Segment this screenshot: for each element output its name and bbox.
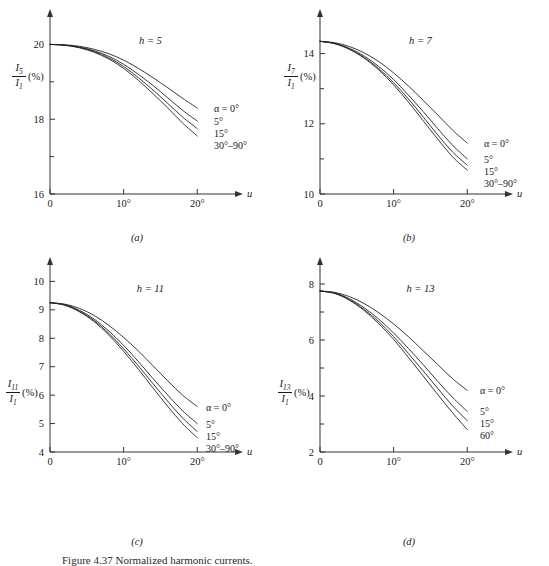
y-unit-d: (%) (294, 387, 310, 398)
svg-text:h = 5: h = 5 (139, 35, 162, 46)
y-den-sub-b: 1 (291, 82, 295, 91)
svg-text:0: 0 (317, 456, 322, 467)
svg-text:30°–90°: 30°–90° (484, 178, 517, 189)
plot-d: u2468010°20°h = 13α = 0°5°15°60° (272, 252, 546, 510)
svg-text:9: 9 (39, 304, 44, 315)
y-axis-label-b: I7 I1 (%) (284, 62, 316, 91)
svg-text:2: 2 (309, 447, 314, 458)
y-num-sub-c: 11 (11, 383, 18, 392)
y-num-sub-b: 7 (291, 67, 295, 76)
svg-text:18: 18 (34, 114, 45, 125)
svg-text:h = 11: h = 11 (137, 283, 164, 294)
y-den-sub-d: 1 (285, 398, 289, 407)
svg-text:20°: 20° (190, 198, 205, 209)
svg-text:0: 0 (47, 198, 52, 209)
svg-text:14: 14 (304, 48, 315, 59)
chart-panel-a: u161820010°20°h = 5α = 0°5°15°30°–90° I5… (0, 0, 274, 258)
svg-text:u: u (517, 446, 522, 457)
svg-text:5°: 5° (484, 154, 493, 165)
panel-letter-c: (c) (0, 536, 274, 547)
y-axis-label-a: I5 I1 (%) (12, 62, 44, 91)
svg-text:60°: 60° (480, 430, 494, 441)
svg-text:α = 0°: α = 0° (214, 103, 239, 114)
chart-panel-d: u2468010°20°h = 13α = 0°5°15°60° (272, 252, 546, 510)
svg-text:10°: 10° (386, 456, 401, 467)
y-unit-c: (%) (22, 387, 38, 398)
svg-text:15°: 15° (214, 128, 228, 139)
svg-text:8: 8 (39, 333, 44, 344)
svg-text:0: 0 (317, 198, 322, 209)
chart-panel-b: u101214010°20°h = 7α = 0°5°15°30°–90° (272, 0, 546, 258)
svg-text:h = 7: h = 7 (409, 35, 433, 46)
svg-text:7: 7 (39, 361, 44, 372)
svg-text:5°: 5° (214, 116, 223, 127)
svg-text:8: 8 (309, 279, 314, 290)
svg-text:30°–90°: 30°–90° (206, 443, 239, 454)
y-unit-b: (%) (300, 71, 316, 82)
svg-text:30°–90°: 30°–90° (214, 140, 247, 151)
svg-text:h = 13: h = 13 (406, 283, 434, 294)
plot-b: u101214010°20°h = 7α = 0°5°15°30°–90° (272, 0, 546, 258)
y-num-sub-d: 13 (283, 383, 291, 392)
svg-text:5°: 5° (480, 406, 489, 417)
svg-text:10: 10 (304, 189, 315, 200)
y-axis-label-d: I13 I1 (%) (278, 378, 310, 407)
svg-text:6: 6 (39, 390, 44, 401)
panel-letter-d: (d) (272, 536, 546, 547)
svg-text:20: 20 (34, 39, 45, 50)
svg-text:α = 0°: α = 0° (480, 385, 505, 396)
y-unit-a: (%) (28, 71, 44, 82)
svg-text:5°: 5° (206, 419, 215, 430)
svg-text:16: 16 (34, 189, 45, 200)
svg-text:0: 0 (47, 456, 52, 467)
svg-text:15°: 15° (206, 431, 220, 442)
svg-text:4: 4 (39, 447, 45, 458)
y-den-sub-a: 1 (19, 82, 23, 91)
svg-text:20°: 20° (460, 198, 475, 209)
svg-text:15°: 15° (484, 166, 498, 177)
svg-text:15°: 15° (480, 418, 494, 429)
svg-text:α = 0°: α = 0° (484, 138, 509, 149)
panel-letter-a: (a) (0, 232, 274, 243)
svg-text:u: u (247, 446, 252, 457)
chart-panel-c: u45678910010°20°h = 11α = 0°5°15°30°–90° (0, 252, 274, 510)
svg-text:6: 6 (309, 335, 314, 346)
plot-c: u45678910010°20°h = 11α = 0°5°15°30°–90° (0, 252, 274, 510)
svg-text:10°: 10° (116, 456, 131, 467)
svg-text:12: 12 (304, 118, 315, 129)
figure-caption: Figure 4.37 Normalized harmonic currents… (62, 554, 502, 566)
svg-text:10: 10 (34, 276, 45, 287)
y-den-sub-c: 1 (13, 398, 17, 407)
svg-text:u: u (517, 188, 522, 199)
svg-text:20°: 20° (190, 456, 205, 467)
plot-a: u161820010°20°h = 5α = 0°5°15°30°–90° (0, 0, 274, 258)
y-num-sub-a: 5 (19, 67, 23, 76)
svg-text:20°: 20° (460, 456, 475, 467)
svg-text:α = 0°: α = 0° (206, 402, 231, 413)
svg-text:10°: 10° (116, 198, 131, 209)
y-axis-label-c: I11 I1 (%) (6, 378, 38, 407)
svg-text:10°: 10° (386, 198, 401, 209)
svg-text:5: 5 (39, 418, 44, 429)
svg-text:u: u (247, 188, 252, 199)
panel-letter-b: (b) (272, 232, 546, 243)
